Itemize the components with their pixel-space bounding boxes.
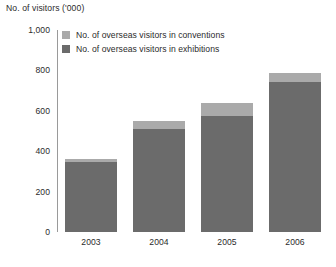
y-tick-label: 600 bbox=[8, 106, 50, 116]
bar-segment-conventions bbox=[201, 103, 253, 116]
x-tick-label: 2006 bbox=[269, 237, 321, 247]
bar-segment-exhibitions bbox=[201, 116, 253, 232]
y-axis-tick-labels: 02004006008001,000 bbox=[0, 30, 50, 232]
bar-stack bbox=[65, 159, 117, 232]
y-tick-label: 200 bbox=[8, 187, 50, 197]
y-tick-label: 800 bbox=[8, 65, 50, 75]
chart-container: No. of visitors ('000) No. of overseas v… bbox=[0, 0, 336, 267]
y-axis-title: No. of visitors ('000) bbox=[6, 3, 84, 13]
bar-stack bbox=[269, 73, 321, 232]
bar-stack bbox=[201, 103, 253, 232]
bar-segment-exhibitions bbox=[269, 82, 321, 232]
y-tick-label: 400 bbox=[8, 146, 50, 156]
bar-segment-exhibitions bbox=[133, 129, 185, 232]
x-tick-label: 2005 bbox=[201, 237, 253, 247]
x-tick-label: 2003 bbox=[65, 237, 117, 247]
y-tick-label: 0 bbox=[8, 227, 50, 237]
bar-stack bbox=[133, 121, 185, 232]
x-axis-tick-labels: 2003200420052006 bbox=[57, 237, 329, 253]
bar-segment-conventions bbox=[133, 121, 185, 129]
y-tick-label: 1,000 bbox=[8, 25, 50, 35]
bar-segment-exhibitions bbox=[65, 162, 117, 232]
bar-segment-conventions bbox=[269, 73, 321, 81]
x-tick-label: 2004 bbox=[133, 237, 185, 247]
bar-series-area bbox=[57, 30, 329, 232]
